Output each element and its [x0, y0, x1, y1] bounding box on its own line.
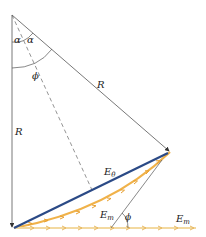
- e-m-curve-label: Em: [99, 209, 114, 222]
- alpha-left-label: α: [14, 34, 21, 45]
- alpha-right-label: α: [27, 34, 34, 45]
- r-diagonal-label: R: [96, 79, 105, 90]
- phi-arc: [12, 49, 52, 68]
- phasor-diagram: α α ϕ R R Eθ Em ϕ Em: [0, 0, 206, 237]
- bisector-dashed-line: [12, 15, 92, 190]
- tangent-line: [111, 160, 162, 228]
- e-m-line-label: Em: [175, 213, 190, 226]
- r-vertical-label: R: [14, 126, 23, 137]
- phi-bottom-label: ϕ: [125, 212, 131, 222]
- e-theta-chord: [14, 153, 168, 228]
- phasor-arc-arrows: [28, 161, 160, 225]
- phi-top-label: ϕ: [32, 70, 39, 81]
- e-theta-label: Eθ: [103, 166, 116, 179]
- radius-diagonal-line: [12, 15, 169, 151]
